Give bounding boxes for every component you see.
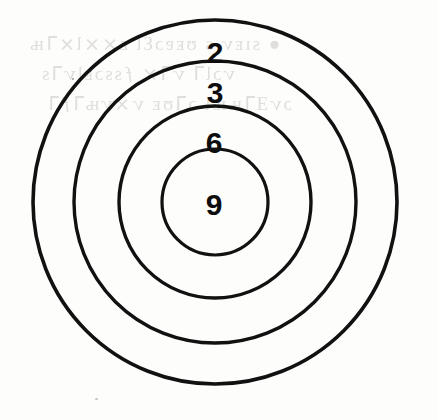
ring-label-second: 3 [185, 78, 245, 108]
target-diagram: ● sıᴇѵ ѕ ʊᴇɐɔƐƖ ᴇ⨯⨯Ɩ⨯⅂њ ѵɔƖ⅂ ѵ⅂⨯ ƒѕѕɔᴇƖѵ… [0, 0, 437, 420]
scan-speck [95, 398, 98, 400]
scan-speck [72, 78, 74, 80]
ring-label-outer: 2 [185, 38, 245, 68]
ring-label-bullseye: 9 [184, 190, 244, 220]
ring-label-third: 6 [184, 128, 244, 158]
